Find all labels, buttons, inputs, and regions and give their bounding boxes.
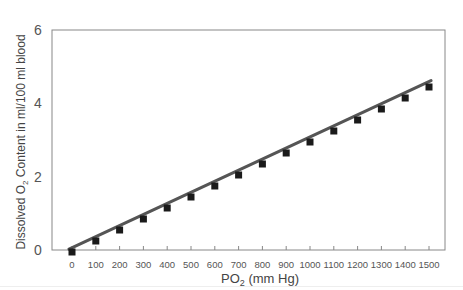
data-point-marker [92, 238, 99, 245]
y-tick-label: 4 [34, 95, 42, 111]
data-point-marker [330, 128, 337, 135]
x-tick-label: 1400 [395, 259, 416, 270]
x-tick-label: 1200 [347, 259, 368, 270]
data-point-marker [426, 84, 433, 91]
y-tick-label: 2 [34, 169, 42, 185]
data-point-marker [211, 183, 218, 190]
chart: 0100200300400500600700800900100011001200… [0, 0, 463, 290]
y-axis-title: Dissolved O2 Content in ml/100 ml blood [14, 34, 30, 249]
x-tick-label: 1500 [418, 259, 439, 270]
fit-line-path [69, 81, 431, 250]
y-axis-ticks: 0246 [34, 22, 42, 258]
data-point-marker [283, 150, 290, 157]
data-point-marker [378, 106, 385, 113]
data-point-marker [69, 249, 76, 256]
x-tick-label: 500 [183, 259, 199, 270]
data-point-marker [259, 161, 266, 168]
x-tick-label: 1100 [324, 259, 344, 270]
x-tick-label: 100 [88, 259, 104, 270]
bottom-divider [0, 286, 463, 287]
y-tick-label: 6 [34, 22, 42, 38]
x-tick-label: 300 [135, 259, 151, 270]
data-point-marker [164, 205, 171, 212]
plot-frame [52, 30, 445, 250]
data-point-marker [307, 139, 314, 146]
x-tick-label: 1000 [299, 259, 320, 270]
x-tick-label: 900 [278, 259, 294, 270]
y-tick-label: 0 [34, 242, 42, 258]
x-tick-label: 600 [207, 259, 223, 270]
data-point-marker [235, 172, 242, 179]
data-point-marker [140, 216, 147, 223]
x-tick-label: 700 [231, 259, 247, 270]
x-tick-label: 200 [112, 259, 128, 270]
x-tick-label: 800 [254, 259, 270, 270]
data-point-marker [402, 95, 409, 102]
data-point-marker [116, 227, 123, 234]
data-point-marker [188, 194, 195, 201]
fit-line [69, 81, 431, 250]
x-tick-label: 400 [159, 259, 175, 270]
x-tick-label: 1300 [371, 259, 392, 270]
data-markers [69, 84, 433, 256]
x-tick-label: 0 [69, 259, 74, 270]
data-point-marker [354, 117, 361, 124]
